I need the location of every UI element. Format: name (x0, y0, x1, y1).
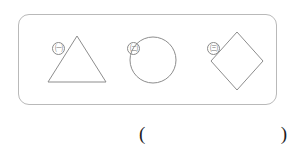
answer-blank[interactable]: ( ) (139, 121, 287, 145)
rhombus-shape (209, 30, 265, 92)
open-paren: ( (139, 124, 145, 143)
triangle-shape (45, 33, 107, 85)
close-paren: ) (281, 124, 287, 143)
circle-shape (128, 35, 178, 85)
worksheet-page: ㈠ ㈡ ㈢ ( ) (0, 0, 296, 157)
